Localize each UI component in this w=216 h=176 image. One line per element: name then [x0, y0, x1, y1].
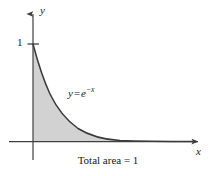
figure-container: y x 1 y=e−x Total area = 1	[0, 0, 216, 176]
figure-caption: Total area = 1	[0, 155, 216, 166]
curve-area-fill	[33, 44, 196, 142]
function-equation-label: y=e−x	[68, 88, 94, 99]
y-axis-tick-label-1: 1	[17, 37, 23, 48]
equation-operator: =	[73, 87, 81, 99]
equation-exponent: −x	[86, 85, 94, 94]
exponential-decay-plot	[0, 0, 216, 176]
y-axis-label: y	[40, 5, 45, 16]
